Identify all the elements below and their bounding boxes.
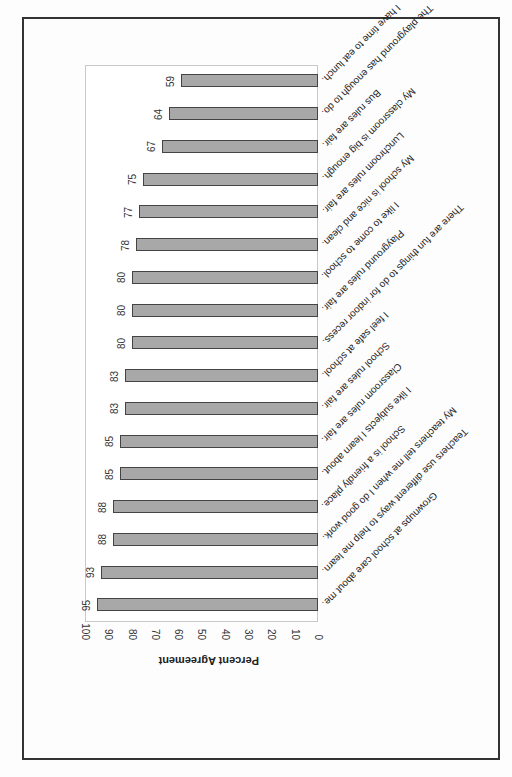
bar — [97, 599, 318, 612]
axis-tick-label: 80 — [127, 629, 138, 640]
bar — [181, 75, 318, 88]
axis-tick-label: 30 — [243, 629, 254, 640]
axis-tick-label: 0 — [313, 634, 324, 640]
axis-tick-label: 70 — [150, 629, 161, 640]
bar — [132, 304, 318, 317]
value-label: 88 — [97, 502, 108, 513]
bar — [120, 435, 318, 448]
value-label: 85 — [104, 469, 115, 480]
value-label: 80 — [116, 338, 127, 349]
value-label: 80 — [116, 305, 127, 316]
value-label: 95 — [81, 600, 92, 611]
bar — [113, 500, 318, 513]
value-label: 75 — [127, 174, 138, 185]
axis-tick-label: 50 — [197, 629, 208, 640]
value-label: 83 — [109, 371, 120, 382]
rotated-page: 9593888885858383808080787775676459 01020… — [0, 0, 512, 777]
axis-tick-label: 90 — [103, 629, 114, 640]
axis-tick-label: 20 — [266, 629, 277, 640]
value-label: 64 — [153, 109, 164, 120]
value-label: 93 — [85, 567, 96, 578]
axis-tick-label: 40 — [220, 629, 231, 640]
bar — [162, 140, 318, 153]
bar — [139, 206, 318, 219]
value-label: 88 — [97, 534, 108, 545]
axis-tick-label: 100 — [80, 623, 91, 640]
axis-tick-label: 10 — [290, 629, 301, 640]
axis-tick-label: 60 — [173, 629, 184, 640]
value-label: 67 — [146, 141, 157, 152]
value-label: 59 — [165, 76, 176, 87]
bar — [143, 173, 318, 186]
value-label: 83 — [109, 403, 120, 414]
bar — [132, 271, 318, 284]
bar — [125, 402, 318, 415]
value-label: 85 — [104, 436, 115, 447]
bar — [169, 107, 318, 120]
bar — [101, 566, 318, 579]
value-label: 78 — [120, 240, 131, 251]
bar — [125, 369, 318, 382]
bar — [113, 533, 318, 546]
value-label: 77 — [123, 207, 134, 218]
bar — [136, 238, 318, 251]
axis-title: Percent Agreement — [159, 655, 259, 667]
bar — [132, 337, 318, 350]
value-label: 80 — [116, 272, 127, 283]
bar — [120, 468, 318, 481]
